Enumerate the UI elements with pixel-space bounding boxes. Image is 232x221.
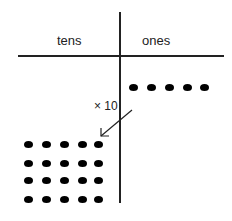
dot (78, 141, 87, 148)
dot (42, 177, 51, 184)
dot (94, 141, 103, 148)
dot (60, 177, 69, 184)
dot (60, 160, 69, 167)
dot (94, 196, 103, 203)
dot (94, 177, 103, 184)
dot (24, 196, 33, 203)
dot (78, 196, 87, 203)
dot (60, 141, 69, 148)
dot (94, 160, 103, 167)
dot (42, 141, 51, 148)
dot (78, 160, 87, 167)
dot (24, 160, 33, 167)
dot (42, 196, 51, 203)
dot (24, 177, 33, 184)
dot (24, 141, 33, 148)
dot (78, 177, 87, 184)
dot (60, 196, 69, 203)
dot (42, 160, 51, 167)
arrow-icon (0, 0, 232, 221)
